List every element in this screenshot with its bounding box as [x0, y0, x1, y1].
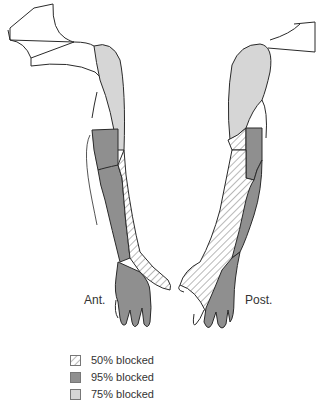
- posterior-arm: [179, 22, 315, 328]
- light-swatch-icon: [70, 389, 81, 400]
- arm-block-diagram: Ant. Post.: [0, 0, 325, 414]
- anterior-arm: [8, 4, 171, 327]
- legend: 50% blocked 95% blocked 75% blocked: [70, 352, 154, 403]
- legend-item-50: 50% blocked: [70, 352, 154, 368]
- legend-label: 50% blocked: [91, 354, 154, 366]
- legend-label: 75% blocked: [91, 388, 154, 400]
- posterior-shoulder-75: [228, 44, 270, 140]
- anterior-label: Ant.: [84, 293, 105, 307]
- dark-swatch-icon: [70, 372, 81, 383]
- legend-item-95: 95% blocked: [70, 369, 154, 385]
- legend-item-75: 75% blocked: [70, 386, 154, 402]
- legend-label: 95% blocked: [91, 371, 154, 383]
- posterior-label: Post.: [245, 293, 272, 307]
- hatched-swatch-icon: [70, 355, 81, 366]
